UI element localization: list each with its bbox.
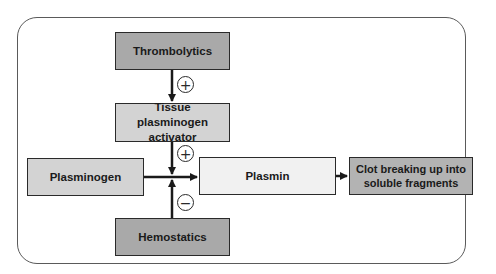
clot-breakdown-label: Clot breaking up into soluble fragments: [354, 162, 468, 191]
plasminogen-node: Plasminogen: [27, 158, 144, 196]
tpa-label: Tissue plasminogen activator: [122, 100, 223, 145]
clot-breakdown-node: Clot breaking up into soluble fragments: [349, 157, 473, 195]
thrombolytics-label: Thrombolytics: [133, 44, 212, 59]
plus-sign-icon: +: [177, 145, 194, 162]
minus-sign-icon: −: [177, 194, 194, 211]
plasmin-node: Plasmin: [199, 157, 336, 195]
connector-arrows: [0, 0, 496, 274]
hemostatics-label: Hemostatics: [138, 230, 206, 245]
thrombolytics-node: Thrombolytics: [115, 32, 230, 70]
plasminogen-label: Plasminogen: [50, 170, 122, 185]
plus-sign-icon: +: [177, 76, 194, 93]
hemostatics-node: Hemostatics: [115, 218, 230, 256]
plasmin-label: Plasmin: [245, 169, 289, 184]
tpa-node: Tissue plasminogen activator: [115, 103, 230, 142]
